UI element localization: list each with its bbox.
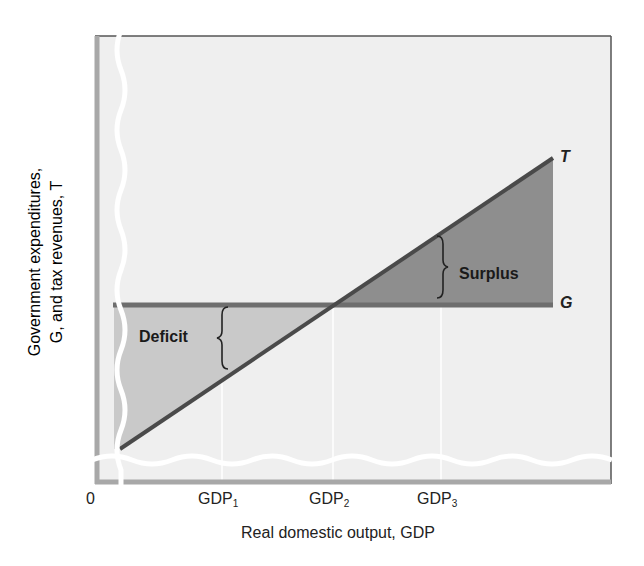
t-series-label: T (560, 148, 570, 166)
y-axis-label-line1: Government expenditures, (24, 132, 46, 392)
g-series-label: G (560, 294, 572, 312)
x-tick-gdp2: GDP2 (309, 490, 349, 509)
deficit-label: Deficit (139, 328, 188, 346)
x-tick-0: 0 (86, 490, 95, 508)
x-tick-gdp3: GDP3 (417, 490, 457, 509)
surplus-label: Surplus (459, 265, 519, 283)
chart-canvas (0, 0, 644, 566)
y-axis-label: Government expenditures, G, and tax reve… (24, 132, 68, 392)
y-axis-label-line2: G, and tax revenues, T (46, 132, 68, 392)
x-tick-gdp1: GDP1 (198, 490, 238, 509)
x-axis-label: Real domestic output, GDP (16, 524, 644, 542)
